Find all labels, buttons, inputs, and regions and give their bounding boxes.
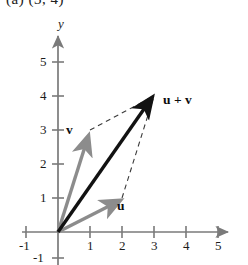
y-axis-label: y [58, 16, 64, 32]
y-tick-label-3: 3 [40, 122, 47, 138]
x-tick-label-4: 4 [183, 238, 190, 254]
y-tick-label-4: 4 [40, 88, 47, 104]
x-tick-label-1: 1 [87, 238, 94, 254]
vector-u-plus-v [58, 99, 151, 232]
x-tick-label-3: 3 [151, 238, 158, 254]
y-tick-label-neg1: -1 [33, 250, 44, 265]
label-vector-u-plus-v: u + v [163, 92, 192, 108]
y-tick-label-5: 5 [40, 54, 47, 70]
x-tick-label-5: 5 [215, 238, 222, 254]
label-vector-u: u [117, 198, 125, 214]
vector-addition-figure: (a) (3, 4) [0, 0, 248, 265]
label-vector-v: v [66, 122, 73, 138]
dashed-u-to-sum [122, 96, 154, 198]
x-tick-label-2: 2 [119, 238, 126, 254]
y-tick-label-2: 2 [40, 156, 47, 172]
plot-canvas [0, 0, 248, 265]
axes [22, 36, 228, 265]
y-tick-label-1: 1 [40, 190, 47, 206]
x-tick-label-neg1: -1 [19, 238, 30, 254]
